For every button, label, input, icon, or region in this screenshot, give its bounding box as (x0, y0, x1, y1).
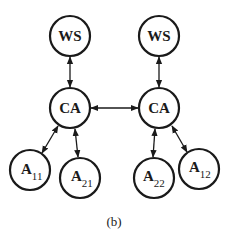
node-a21-sub: 21 (82, 177, 93, 189)
node-a21: A21 (60, 158, 100, 198)
node-a12-sub: 12 (200, 168, 211, 180)
node-a22-label: A (143, 168, 154, 184)
node-a21-label: A (71, 168, 82, 184)
node-a12-label: A (189, 159, 200, 175)
node-ca-right: CA (139, 88, 179, 128)
diagram-canvas: WS WS CA CA A11 A21 A (0, 0, 230, 242)
node-a12: A12 (179, 149, 219, 189)
node-a11-label: A (21, 161, 32, 177)
node-a22-sub: 22 (154, 177, 165, 189)
node-ca-right-label: CA (148, 100, 170, 116)
edge-ca-right-a12 (172, 126, 187, 152)
node-a11-sub: 11 (32, 170, 43, 182)
node-ws-right-label: WS (147, 28, 170, 44)
node-a22: A22 (134, 158, 174, 198)
node-ca-left-label: CA (59, 100, 81, 116)
node-ws-right: WS (139, 16, 179, 56)
edge-ca-right-a22 (153, 129, 155, 157)
figure-caption: (b) (106, 214, 121, 229)
node-ca-left: CA (50, 88, 90, 128)
node-ws-left-label: WS (58, 28, 81, 44)
edge-ca-left-a11 (42, 126, 58, 153)
node-a11: A11 (10, 150, 50, 190)
edge-ca-left-a21 (75, 129, 78, 157)
node-ws-left: WS (50, 16, 90, 56)
